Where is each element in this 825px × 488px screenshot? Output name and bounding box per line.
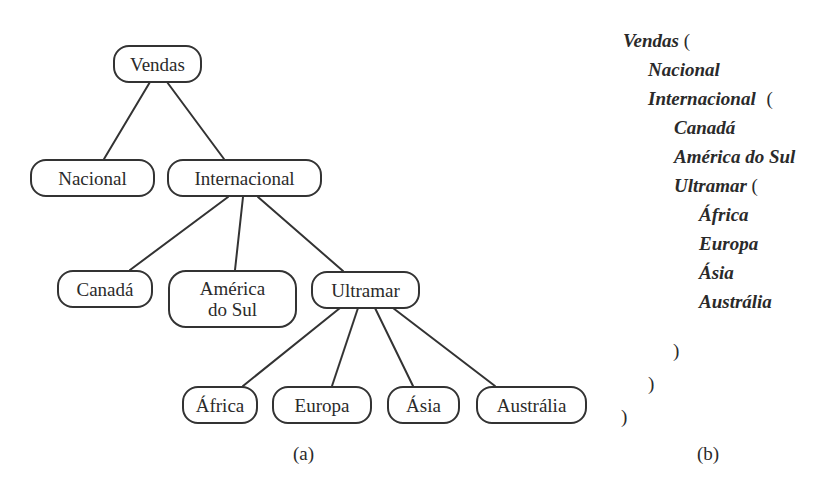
outline-label: Internacional	[648, 88, 756, 109]
outline-label: Vendas	[623, 30, 679, 51]
node-asia: Ásia	[387, 386, 460, 424]
outline-internacional: Internacional (	[648, 88, 773, 110]
outline-label: Europa	[699, 233, 758, 254]
open-paren: (	[752, 175, 758, 196]
outline-label: Canadá	[674, 117, 735, 138]
caption-b: (b)	[697, 443, 719, 465]
outline-label: Nacional	[648, 59, 720, 80]
outline-europa: Europa	[699, 233, 758, 255]
open-paren: (	[766, 88, 772, 109]
caption-a: (a)	[293, 443, 314, 465]
node-label: Internacional	[194, 168, 294, 189]
node-label: Europa	[295, 395, 350, 416]
edge-internacional-ultramar	[258, 197, 343, 271]
outline-label: África	[699, 204, 749, 225]
outline-label: Austrália	[699, 291, 772, 312]
edge-internacional-canada	[130, 197, 228, 270]
open-paren: (	[684, 30, 690, 51]
outline-nacional: Nacional	[648, 59, 720, 81]
node-label: Nacional	[58, 168, 127, 189]
outline-label: Ásia	[699, 262, 734, 283]
outline-label: América do Sul	[674, 146, 795, 167]
node-label: Austrália	[497, 395, 567, 416]
node-label-line2: do Sul	[208, 299, 257, 320]
node-label: Canadá	[77, 279, 134, 300]
edge-vendas-nacional	[104, 82, 150, 159]
node-label: África	[196, 395, 245, 416]
node-internacional: Internacional	[167, 159, 322, 197]
node-vendas: Vendas	[113, 45, 202, 83]
outline-australia: Austrália	[699, 291, 772, 313]
close-paren-vendas: )	[621, 406, 627, 428]
node-label: Vendas	[130, 54, 185, 75]
close-paren-internacional: )	[648, 373, 654, 395]
node-europa: Europa	[272, 386, 372, 424]
node-america-do-sul: América do Sul	[168, 270, 297, 328]
node-nacional: Nacional	[30, 159, 155, 197]
node-canada: Canadá	[57, 270, 153, 308]
outline-label: Ultramar	[674, 175, 747, 196]
outline-america-do-sul: América do Sul	[674, 146, 795, 168]
outline-asia: Ásia	[699, 262, 734, 284]
edge-internacional-america-do-sul	[235, 197, 243, 270]
node-ultramar: Ultramar	[311, 271, 420, 309]
node-label: Ásia	[406, 395, 441, 416]
outline-ultramar: Ultramar (	[674, 175, 758, 197]
close-paren-ultramar: )	[673, 340, 679, 362]
node-africa: África	[182, 386, 258, 424]
node-australia: Austrália	[476, 386, 587, 424]
outline-africa: África	[699, 204, 749, 226]
outline-canada: Canadá	[674, 117, 735, 139]
edge-vendas-internacional	[167, 82, 224, 159]
node-label: Ultramar	[331, 280, 400, 301]
edge-ultramar-europa	[332, 308, 358, 386]
node-label-line1: América	[200, 278, 265, 299]
outline-vendas: Vendas (	[623, 30, 690, 52]
